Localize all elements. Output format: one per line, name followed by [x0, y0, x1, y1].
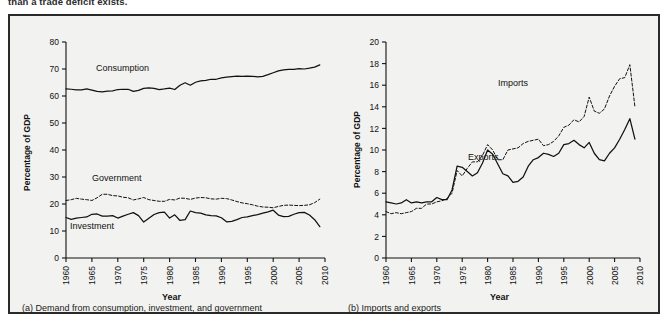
- series-label-imports: Imports: [498, 78, 528, 88]
- chart-a-caption: (a) Demand from consumption, investment,…: [22, 303, 262, 313]
- figure-root: than a trade deficit exists. 01020304050…: [0, 0, 670, 325]
- svg-text:6: 6: [374, 188, 379, 198]
- chart-b-xlabel: Year: [490, 292, 509, 302]
- svg-text:0: 0: [374, 253, 379, 263]
- svg-text:1990: 1990: [217, 266, 227, 285]
- figure-frame: 0102030405060708019601965197019751980198…: [8, 14, 660, 314]
- svg-text:60: 60: [50, 91, 60, 101]
- svg-text:2000: 2000: [269, 266, 279, 285]
- svg-text:1965: 1965: [407, 266, 417, 285]
- svg-text:1985: 1985: [191, 266, 201, 285]
- svg-text:1975: 1975: [458, 266, 468, 285]
- svg-text:2010: 2010: [320, 266, 330, 285]
- svg-text:2000: 2000: [585, 266, 595, 285]
- svg-text:2010: 2010: [635, 266, 645, 285]
- svg-text:1995: 1995: [559, 266, 569, 285]
- svg-text:30: 30: [50, 172, 60, 182]
- chart-a-ylabel: Percentage of GDP: [22, 114, 32, 191]
- svg-text:1970: 1970: [432, 266, 442, 285]
- body-text-fragment: than a trade deficit exists.: [8, 0, 127, 7]
- svg-text:1975: 1975: [139, 266, 149, 285]
- svg-text:1990: 1990: [534, 266, 544, 285]
- series-label-investment: Investment: [70, 221, 114, 231]
- svg-text:10: 10: [50, 226, 60, 236]
- svg-text:14: 14: [370, 102, 380, 112]
- svg-text:70: 70: [50, 64, 60, 74]
- svg-text:1970: 1970: [113, 266, 123, 285]
- svg-text:1965: 1965: [87, 266, 97, 285]
- svg-text:0: 0: [54, 253, 59, 263]
- svg-text:1995: 1995: [243, 266, 253, 285]
- svg-text:1980: 1980: [483, 266, 493, 285]
- series-label-consumption: Consumption: [96, 63, 149, 73]
- svg-text:2005: 2005: [294, 266, 304, 285]
- svg-text:2005: 2005: [610, 266, 620, 285]
- panel-demand: 0102030405060708019601965197019751980198…: [10, 16, 340, 316]
- chart-b-ylabel: Percentage of GDP: [352, 111, 362, 188]
- svg-text:2: 2: [374, 232, 379, 242]
- svg-text:40: 40: [50, 145, 60, 155]
- svg-text:1960: 1960: [381, 266, 391, 285]
- chart-a-canvas: 0102030405060708019601965197019751980198…: [10, 16, 340, 316]
- svg-text:20: 20: [370, 37, 380, 47]
- chart-b-caption: (b) Imports and exports: [348, 303, 441, 313]
- svg-text:16: 16: [370, 80, 380, 90]
- svg-text:18: 18: [370, 59, 380, 69]
- panel-trade: 0246810121416182019601965197019751980198…: [340, 16, 658, 316]
- svg-text:20: 20: [50, 199, 60, 209]
- svg-text:4: 4: [374, 210, 379, 220]
- chart-b-canvas: 0246810121416182019601965197019751980198…: [340, 16, 658, 316]
- svg-text:12: 12: [370, 124, 380, 134]
- chart-a-xlabel: Year: [162, 292, 181, 302]
- svg-text:50: 50: [50, 118, 60, 128]
- svg-text:80: 80: [50, 37, 60, 47]
- svg-text:8: 8: [374, 167, 379, 177]
- svg-text:1960: 1960: [61, 266, 71, 285]
- svg-text:1985: 1985: [508, 266, 518, 285]
- series-label-exports: Exports: [468, 152, 499, 162]
- series-label-government: Government: [92, 173, 142, 183]
- svg-text:1980: 1980: [165, 266, 175, 285]
- svg-text:10: 10: [370, 145, 380, 155]
